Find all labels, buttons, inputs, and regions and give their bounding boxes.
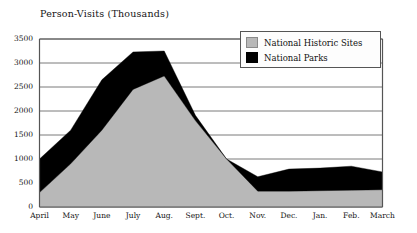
x-axis-tick-label: Dec. — [280, 211, 297, 220]
x-axis-tick-label: March — [370, 211, 395, 220]
chart-legend: National Historic Sites National Parks — [240, 31, 381, 68]
x-axis-tick-label: June — [93, 211, 110, 220]
x-axis-tick-label: Aug. — [156, 211, 173, 220]
legend-label-historic-sites: National Historic Sites — [264, 38, 362, 48]
legend-item-national-parks: National Parks — [246, 50, 328, 65]
y-axis-tick-label: 0 — [3, 202, 33, 211]
x-axis-tick-label: Nov. — [249, 211, 266, 220]
legend-item-historic-sites: National Historic Sites — [246, 35, 362, 50]
y-axis-tick-label: 2000 — [3, 106, 33, 115]
x-axis-tick-label: July — [126, 211, 140, 220]
y-axis-tick-label: 1000 — [3, 154, 33, 163]
x-axis-tick-label: May — [62, 211, 78, 220]
x-axis-tick-label: Sept. — [186, 211, 206, 220]
y-axis-tick-label: 3000 — [3, 58, 33, 67]
y-axis-tick-label: 1500 — [3, 130, 33, 139]
legend-label-national-parks: National Parks — [264, 53, 328, 63]
x-axis-tick-label: Jan. — [313, 211, 328, 220]
legend-swatch-historic-sites — [246, 37, 258, 48]
legend-swatch-national-parks — [246, 52, 258, 63]
y-axis-tick-label: 2500 — [3, 82, 33, 91]
y-axis-tick-label: 500 — [3, 178, 33, 187]
stacked-area-group — [40, 51, 383, 207]
y-axis-tick-label: 3500 — [3, 34, 33, 43]
chart-container: Person-Visits (Thousands) 35003000250020… — [0, 0, 417, 233]
x-axis-tick-label: April — [30, 211, 49, 220]
x-axis-tick-label: Feb. — [343, 211, 359, 220]
x-axis-tick-label: Oct. — [219, 211, 235, 220]
